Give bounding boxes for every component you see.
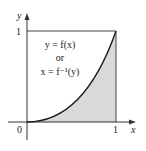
origin-label: 0 bbox=[17, 124, 22, 135]
x-axis-label: x bbox=[130, 124, 136, 135]
annotation-line3: x = f⁻¹(y) bbox=[41, 66, 80, 78]
annotation-line1: y = f(x) bbox=[45, 39, 76, 51]
y-tick-label: 1 bbox=[16, 26, 21, 37]
y-axis-arrow-icon bbox=[25, 13, 30, 20]
annotation-line2: or bbox=[56, 52, 65, 63]
y-axis-label: y bbox=[16, 10, 22, 21]
x-tick-label: 1 bbox=[113, 124, 118, 135]
function-graph: y 1 0 1 x y = f(x) or x = f⁻¹(y) bbox=[0, 0, 146, 151]
